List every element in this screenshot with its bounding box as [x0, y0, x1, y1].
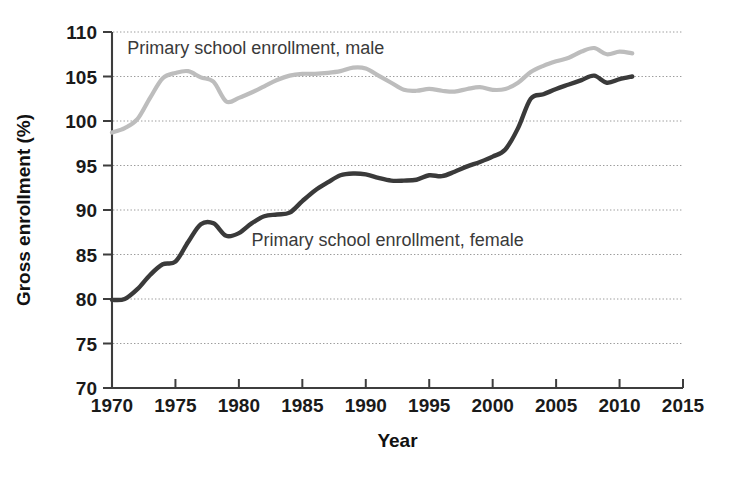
x-tick-label-2015: 2015	[662, 395, 705, 416]
y-tick-label-105: 105	[65, 67, 97, 88]
x-tick-marks-group	[112, 379, 683, 388]
y-tick-labels-group: 707580859095100105110	[65, 22, 97, 399]
x-tick-label-1995: 1995	[408, 395, 451, 416]
x-tick-label-1980: 1980	[218, 395, 260, 416]
x-axis-title: Year	[377, 430, 418, 451]
x-tick-label-2010: 2010	[598, 395, 640, 416]
x-tick-label-2005: 2005	[535, 395, 578, 416]
y-tick-label-85: 85	[76, 245, 98, 266]
female-series-label: Primary school enrollment, female	[252, 230, 524, 250]
y-tick-label-80: 80	[76, 289, 97, 310]
y-tick-label-110: 110	[66, 22, 97, 43]
x-tick-labels-group: 1970197519801985199019952000200520102015	[91, 395, 705, 416]
y-tick-label-100: 100	[65, 111, 97, 132]
y-tick-label-90: 90	[76, 200, 97, 221]
y-tick-label-95: 95	[76, 156, 98, 177]
y-tick-label-75: 75	[76, 334, 98, 355]
chart-figure: 707580859095100105110 197019751980198519…	[0, 0, 732, 477]
x-tick-label-1990: 1990	[345, 395, 387, 416]
x-tick-label-1970: 1970	[91, 395, 133, 416]
y-tick-marks-group	[103, 32, 112, 388]
male-series-label: Primary school enrollment, male	[127, 38, 384, 58]
x-tick-label-1975: 1975	[154, 395, 197, 416]
x-tick-label-1985: 1985	[281, 395, 324, 416]
line-chart-canvas: 707580859095100105110 197019751980198519…	[0, 0, 732, 477]
x-tick-label-2000: 2000	[472, 395, 514, 416]
series-line-female	[112, 76, 632, 300]
y-axis-title: Gross enrollment (%)	[13, 114, 34, 306]
series-group	[112, 48, 632, 300]
